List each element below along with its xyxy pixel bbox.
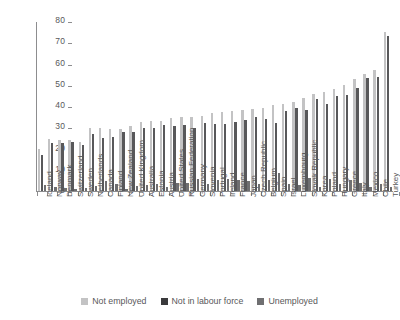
x-axis-tick-label: Switzerland xyxy=(76,156,84,197)
x-axis-tick-label: United States xyxy=(178,149,186,197)
x-axis-tick-label: Belgium xyxy=(269,168,277,197)
chart-legend: Not employedNot in labour forceUnemploye… xyxy=(0,296,399,306)
x-axis-label-cell: Canada xyxy=(98,197,108,285)
legend-item[interactable]: Unemployed xyxy=(257,296,317,306)
x-axis-label-cell: Japan xyxy=(240,197,250,285)
bar xyxy=(38,149,40,192)
bar-group xyxy=(352,22,362,191)
x-axis-tick-label: Italy xyxy=(361,182,369,197)
x-axis-tick-label: Canada xyxy=(107,169,115,197)
x-axis-tick-label: Japan xyxy=(249,175,257,197)
x-axis-tick-label: Australia xyxy=(147,166,155,197)
bar-group xyxy=(271,22,281,191)
x-axis-tick-label: Slovak Republic xyxy=(310,140,318,197)
bar-group xyxy=(373,22,383,191)
x-axis-tick-label: Spain xyxy=(280,177,288,197)
x-axis-tick-label: Sweden xyxy=(86,168,94,197)
x-axis-label-cell: Spain xyxy=(271,197,281,285)
x-axis-tick-label: Mexico xyxy=(371,172,379,197)
x-axis-label-cell: Turkey xyxy=(383,197,393,285)
x-axis-label-cell: United States xyxy=(169,197,179,285)
x-axis-label-cell: New Zealand xyxy=(118,197,128,285)
x-axis-tick-label: Ireland xyxy=(229,173,237,197)
x-axis-tick-label: Turkey xyxy=(392,173,400,197)
x-axis-label-cell: Luxembourg xyxy=(291,197,301,285)
x-axis-tick-label: Netherlands xyxy=(97,154,105,197)
x-axis-label-cell: France xyxy=(230,197,240,285)
bar-group xyxy=(159,22,169,191)
x-axis-label-cell: Sweden xyxy=(78,197,88,285)
x-axis-tick-label: Poland xyxy=(330,172,338,197)
x-axis-label-cell: Hungary xyxy=(332,197,342,285)
x-axis-label-cell: Chile xyxy=(373,197,383,285)
x-axis-label-cell: Germany xyxy=(190,197,200,285)
legend-label: Not employed xyxy=(92,296,146,306)
x-axis-tick-label: Hungary xyxy=(341,167,349,197)
x-axis-label-cell: United Kingdom xyxy=(129,197,139,285)
x-axis-label-cell: Ireland xyxy=(220,197,230,285)
x-axis-tick-label: United Kingdom xyxy=(137,140,145,197)
legend-label: Not in labour force xyxy=(172,296,244,306)
x-axis-tick-label: Estonia xyxy=(158,170,166,197)
x-axis-label-cell: Slovak Republic xyxy=(301,197,311,285)
x-axis-label-cell: Czech Republic xyxy=(251,197,261,285)
x-axis-label-cell: Israel xyxy=(281,197,291,285)
x-axis-label-cell: Portugal xyxy=(210,197,220,285)
bar-group xyxy=(342,22,352,191)
bar-group xyxy=(37,22,47,191)
x-axis-label-cell: Poland xyxy=(322,197,332,285)
x-axis-tick-label: Korea xyxy=(320,176,328,197)
bar-group xyxy=(332,22,342,191)
bar-group xyxy=(322,22,332,191)
legend-swatch-icon xyxy=(81,298,88,305)
x-axis-label-cell: Austria xyxy=(159,197,169,285)
x-axis-label-cell: Netherlands xyxy=(88,197,98,285)
x-axis-label-cell: Norway xyxy=(47,197,57,285)
bar-group xyxy=(108,22,118,191)
x-axis-tick-label: Iceland xyxy=(46,171,54,197)
x-axis-label-cell: Korea xyxy=(312,197,322,285)
x-axis-tick-label: Israel xyxy=(290,177,298,197)
x-axis-tick-mark xyxy=(37,192,38,196)
x-axis-tick-label: Portugal xyxy=(219,167,227,197)
x-axis-label-cell: Russian Federation xyxy=(179,197,189,285)
legend-item[interactable]: Not in labour force xyxy=(161,296,244,306)
bar xyxy=(363,74,365,191)
x-axis-tick-label: Denmark xyxy=(66,165,74,197)
x-axis-tick-label: Chile xyxy=(381,179,389,197)
x-axis-label-cell: Iceland xyxy=(37,197,47,285)
bar-group xyxy=(383,22,393,191)
bar-group xyxy=(240,22,250,191)
bar xyxy=(384,32,386,191)
x-axis-tick-label: Czech Republic xyxy=(259,141,267,197)
x-axis-tick-label: Finland xyxy=(117,171,125,197)
x-axis-tick-label: New Zealand xyxy=(127,150,135,197)
x-axis-label-cell: Estonia xyxy=(149,197,159,285)
x-axis-label-cell: Italy xyxy=(352,197,362,285)
x-axis-label-cell: Belgium xyxy=(261,197,271,285)
x-axis-label-cell: Switzerland xyxy=(68,197,78,285)
legend-swatch-icon xyxy=(257,298,264,305)
x-axis-tick-label: Germany xyxy=(198,164,206,197)
x-axis-tick-label: Russian Federation xyxy=(188,128,196,197)
x-axis-label-cell: Finland xyxy=(108,197,118,285)
x-axis-tick-label: Luxembourg xyxy=(300,153,308,197)
legend-item[interactable]: Not employed xyxy=(81,296,146,306)
x-axis-label-cell: Denmark xyxy=(57,197,67,285)
x-axis-tick-label: Norway xyxy=(56,170,64,197)
bar xyxy=(41,155,43,191)
bar-group xyxy=(220,22,230,191)
x-axis-label-cell: Greece xyxy=(342,197,352,285)
x-axis-label-cell: Slovenia xyxy=(200,197,210,285)
x-axis-tick-label: Greece xyxy=(351,171,359,197)
x-axis-tick-label: Slovenia xyxy=(208,166,216,197)
bar-group xyxy=(281,22,291,191)
bar-group xyxy=(47,22,57,191)
x-axis-tick-label: France xyxy=(239,172,247,197)
bar-group xyxy=(363,22,373,191)
x-axis-label-cell: Australia xyxy=(139,197,149,285)
bar xyxy=(387,36,389,191)
bar xyxy=(366,78,368,191)
legend-label: Unemployed xyxy=(268,296,317,306)
